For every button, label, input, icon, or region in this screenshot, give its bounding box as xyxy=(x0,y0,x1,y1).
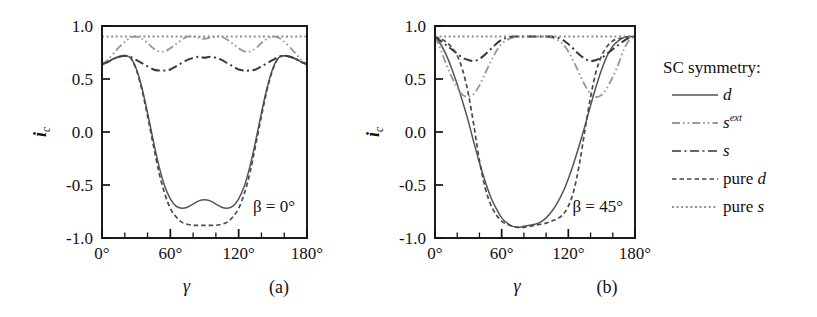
curve-b-s xyxy=(435,37,635,61)
curve-b-sext xyxy=(435,37,635,98)
legend-label-0: d xyxy=(723,85,732,104)
legend-title: SC symmetry: xyxy=(663,58,761,77)
legend-label-4: pure s xyxy=(723,197,764,216)
legend-label-1: sext xyxy=(723,112,743,132)
x-tick-label-b-2: 120° xyxy=(552,244,584,263)
panel-label-b: (b) xyxy=(597,277,618,298)
y-axis-label-text-b: ic xyxy=(363,127,385,137)
x-tick-label-a-2: 120° xyxy=(223,244,255,263)
y-axis-label-text-a: ic xyxy=(30,127,52,137)
legend: SC symmetry:dsextspure dpure s xyxy=(663,58,766,216)
x-tick-label-b-0: 0° xyxy=(427,244,442,263)
panel-label-a: (a) xyxy=(269,277,289,298)
legend-label-2: s xyxy=(723,141,730,160)
x-tick-label-a-3: 180° xyxy=(291,244,323,263)
legend-item-s[interactable]: s xyxy=(672,141,730,160)
y-tick-label-b-1: 0.5 xyxy=(405,70,426,89)
x-tick-label-a-1: 60° xyxy=(158,244,182,263)
x-tick-label-b-3: 180° xyxy=(619,244,651,263)
figure-root: 1.00.50.0-0.5-1.00°60°120°180°icγ(a)β = … xyxy=(0,0,817,317)
y-tick-label-a-3: -0.5 xyxy=(66,176,93,195)
y-tick-label-a-2: 0.0 xyxy=(72,123,93,142)
x-axis-label-b: γ xyxy=(513,276,521,296)
x-tick-label-a-0: 0° xyxy=(94,244,109,263)
legend-label-3: pure d xyxy=(723,169,766,188)
y-tick-label-a-1: 0.5 xyxy=(72,70,93,89)
y-tick-label-b-3: -0.5 xyxy=(399,176,426,195)
figure-svg: 1.00.50.0-0.5-1.00°60°120°180°icγ(a)β = … xyxy=(0,0,817,317)
legend-item-pure-s[interactable]: pure s xyxy=(672,197,764,216)
legend-item-s-ext[interactable]: sext xyxy=(672,112,743,132)
legend-item-d[interactable]: d xyxy=(672,85,732,104)
y-tick-label-a-4: -1.0 xyxy=(66,229,93,248)
x-axis-label-a: γ xyxy=(183,276,191,296)
plot-panel-b: 1.00.50.0-0.5-1.00°60°120°180°icγ(b)β = … xyxy=(363,17,651,298)
annotation-beta-a: β = 0° xyxy=(253,197,295,216)
y-tick-label-b-0: 1.0 xyxy=(405,17,426,36)
y-axis-label-b: ic xyxy=(363,127,385,137)
curve-a-d xyxy=(102,56,307,209)
y-tick-label-b-4: -1.0 xyxy=(399,229,426,248)
legend-item-pure-d[interactable]: pure d xyxy=(672,169,766,188)
y-tick-label-a-0: 1.0 xyxy=(72,17,93,36)
y-tick-label-b-2: 0.0 xyxy=(405,123,426,142)
annotation-beta-b: β = 45° xyxy=(572,197,623,216)
plot-panel-a: 1.00.50.0-0.5-1.00°60°120°180°icγ(a)β = … xyxy=(30,17,323,298)
x-tick-label-b-1: 60° xyxy=(490,244,514,263)
y-axis-label-a: ic xyxy=(30,127,52,137)
